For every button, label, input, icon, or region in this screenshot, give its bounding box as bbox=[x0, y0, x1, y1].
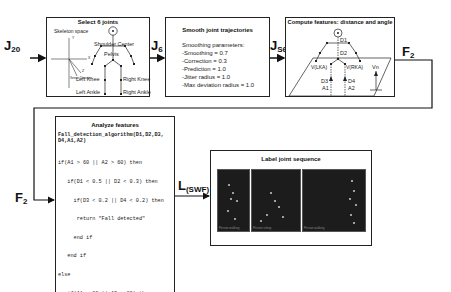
analyze-features-box: Analyze features Fall_detection_algorith… bbox=[55, 116, 175, 292]
label-v-lka: V(LKA) bbox=[311, 64, 327, 70]
joint-right-ankle: Right Ankle bbox=[123, 89, 151, 95]
frame-caption: Person sitting bbox=[253, 226, 271, 230]
code-line: end if bbox=[58, 253, 164, 259]
label-d4: D4 bbox=[348, 78, 355, 84]
code-line: if(D3 < 0.2 || D4 < 0.2) then bbox=[58, 198, 164, 204]
code-line: end if bbox=[58, 235, 164, 241]
frame-caption: Person walking bbox=[219, 226, 239, 230]
label-d1: D1 bbox=[340, 37, 347, 43]
param-jitter-radius: -Jitter radius = 1.0 bbox=[182, 73, 254, 81]
joint-shoulder-center: Shoulder Center bbox=[94, 41, 134, 47]
label-a1: A1 bbox=[322, 85, 329, 91]
analyze-title: Analyze features bbox=[56, 122, 174, 128]
axis-z-label: Z bbox=[82, 69, 84, 73]
param-prediction: -Prediction = 1.0 bbox=[182, 65, 254, 73]
algorithm-signature: Fall_detection_algorithm(D1,D2,D3,D4,A1,… bbox=[58, 132, 164, 144]
label-sequence-box: Label joint sequence Person walking Pers… bbox=[210, 150, 372, 246]
algorithm-body: if(A1 > 60 || A2 > 60) then if(D1 < 0.5 … bbox=[58, 148, 164, 292]
smooth-trajectories-box: Smooth joint trajectories Smoothing para… bbox=[165, 17, 270, 97]
label-sequence-title: Label joint sequence bbox=[211, 156, 371, 162]
skeleton-diagram bbox=[47, 18, 151, 98]
joint-left-ankle: Left Ankle bbox=[76, 89, 100, 95]
param-max-deviation: -Max deviation radius = 1.0 bbox=[182, 81, 254, 89]
frame-caption: Person walking bbox=[304, 226, 324, 230]
params-header: Smoothing parameters: bbox=[182, 41, 254, 49]
label-d3: D3 bbox=[321, 78, 328, 84]
param-smoothing: -Smoothing = 0.7 bbox=[182, 49, 254, 57]
label-vn: Vn bbox=[372, 64, 379, 70]
axis-x-label: X bbox=[88, 56, 90, 60]
smoothing-params: Smoothing parameters: -Smoothing = 0.7 -… bbox=[182, 41, 254, 89]
axis-y-label: Y bbox=[72, 36, 74, 40]
joint-right-knee: Right Knee bbox=[123, 76, 150, 82]
code-line: if(D1 < 0.5 || D2 < 0.3) then bbox=[58, 179, 164, 185]
select-joints-box: Select 6 joints Skeleton space bbox=[46, 17, 150, 97]
label-d2: D2 bbox=[340, 50, 347, 56]
compute-features-box: Compute features: distance and angle D1 bbox=[285, 17, 395, 97]
joint-pelvis: Pelvis bbox=[104, 51, 119, 57]
code-line: if(A1 > 60 || A2 > 60) then bbox=[58, 160, 164, 166]
feature-diagram bbox=[286, 18, 396, 98]
frame-thumbnail-1: Person walking bbox=[217, 169, 250, 232]
label-v-rka: V(RKA) bbox=[346, 64, 363, 70]
frame-thumbnail-2: Person sitting bbox=[251, 169, 301, 232]
label-a2: A2 bbox=[348, 85, 355, 91]
code-line: else bbox=[58, 272, 164, 278]
joint-left-knee: Left Knee bbox=[76, 76, 100, 82]
param-correction: -Correction = 0.3 bbox=[182, 57, 254, 65]
code-line: return "Fall detected" bbox=[58, 216, 164, 222]
code-line: D4,A1,A2) bbox=[58, 138, 164, 144]
smooth-title: Smooth joint trajectories bbox=[166, 27, 269, 33]
frame-thumbnail-3: Person walking bbox=[302, 169, 366, 232]
